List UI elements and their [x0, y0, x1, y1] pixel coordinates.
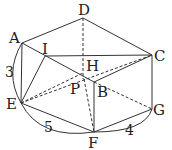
- vertex-labels: A D C I H P B E F G: [6, 1, 165, 150]
- label-F: F: [88, 134, 98, 150]
- dim-EF: 5: [44, 119, 53, 135]
- label-B: B: [97, 83, 108, 101]
- dimension-values: 3 5 4: [5, 64, 134, 138]
- label-A: A: [8, 29, 20, 47]
- label-P: P: [70, 80, 80, 98]
- edge-FG: [94, 109, 152, 132]
- label-E: E: [6, 95, 17, 113]
- figure-canvas: A D C I H P B E F G 3 5 4: [0, 0, 172, 150]
- dim-AE: 3: [5, 64, 14, 80]
- label-C: C: [154, 47, 165, 65]
- label-I: I: [42, 40, 48, 58]
- dim-FG: 4: [125, 122, 134, 138]
- edge-BC: [94, 55, 152, 82]
- label-H: H: [86, 57, 99, 75]
- edge-DC: [83, 18, 152, 55]
- solid-edges: [21, 18, 152, 132]
- arc-AE: [13, 43, 22, 103]
- edge-PF: [84, 79, 94, 132]
- dimension-arcs: [13, 43, 152, 133]
- label-D: D: [78, 1, 90, 19]
- geometry-figure: A D C I H P B E F G 3 5 4: [0, 0, 172, 150]
- edge-AD: [22, 18, 83, 43]
- edge-AE: [21, 43, 22, 103]
- label-G: G: [153, 101, 165, 119]
- edge-IC: [45, 55, 152, 56]
